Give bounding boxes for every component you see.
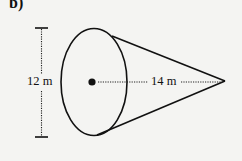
cone-diagram: b) 12 m 14 m [0,0,242,161]
base-center-dot [88,78,95,85]
diameter-label: 12 m [26,75,53,88]
height-label: 14 m [150,75,177,88]
part-label: b) [9,0,23,11]
lower-slant-edge [97,81,225,135]
